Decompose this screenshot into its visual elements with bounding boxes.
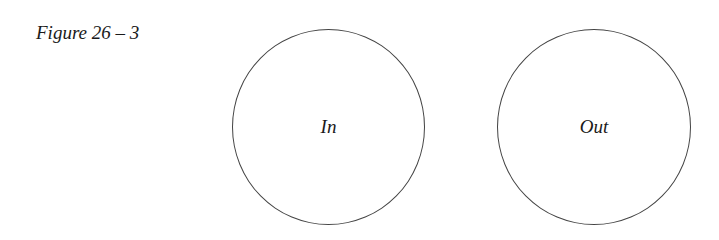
figure-caption: Figure 26 – 3: [36, 22, 139, 44]
out-circle: Out: [497, 29, 691, 225]
in-circle: In: [232, 29, 425, 225]
in-circle-label: In: [233, 116, 424, 138]
out-circle-label: Out: [498, 116, 690, 138]
